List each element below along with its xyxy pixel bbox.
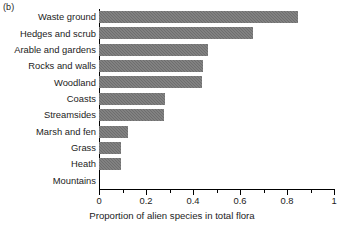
- bar: [99, 109, 164, 121]
- bar-row: [99, 42, 334, 58]
- y-axis-tick-label: Waste ground: [0, 11, 96, 22]
- x-tick-label: 1: [314, 195, 344, 207]
- y-axis-tick-label: Arable and gardens: [0, 44, 96, 55]
- x-tick-label: 0.2: [126, 195, 166, 207]
- bar: [99, 76, 202, 88]
- bar-row: [99, 25, 334, 41]
- bar: [99, 60, 203, 72]
- x-tick-minor: [217, 190, 218, 193]
- bar: [99, 44, 208, 56]
- y-axis-tick-label: Streamsides: [0, 109, 96, 120]
- y-axis-tick-label: Woodland: [0, 77, 96, 88]
- bar: [99, 158, 121, 170]
- x-tick-label: 0.4: [173, 195, 213, 207]
- bar-row: [99, 124, 334, 140]
- x-tick-minor: [123, 190, 124, 193]
- x-tick-label: 0: [79, 195, 119, 207]
- figure-panel-b: (b) Waste groundHedges and scrubArable a…: [0, 0, 344, 226]
- y-axis-tick-label: Mountains: [0, 175, 96, 186]
- y-axis-tick-label: Grass: [0, 142, 96, 153]
- bar: [99, 142, 121, 154]
- bar-row: [99, 58, 334, 74]
- bar: [99, 27, 253, 39]
- y-axis-tick-label: Marsh and fen: [0, 126, 96, 137]
- x-tick-minor: [264, 190, 265, 193]
- bar-row: [99, 173, 334, 189]
- plot-area: [99, 9, 334, 189]
- x-tick-label: 0.8: [267, 195, 307, 207]
- x-tick-minor: [311, 190, 312, 193]
- y-axis-tick-label: Hedges and scrub: [0, 28, 96, 39]
- x-axis-title: Proportion of alien species in total flo…: [0, 210, 344, 222]
- bar: [99, 11, 298, 23]
- bar: [99, 126, 128, 138]
- bar-row: [99, 156, 334, 172]
- x-tick-label: 0.6: [220, 195, 260, 207]
- x-tick-minor: [170, 190, 171, 193]
- y-axis-tick-label: Rocks and walls: [0, 60, 96, 71]
- bar-row: [99, 107, 334, 123]
- y-axis-tick-label: Coasts: [0, 93, 96, 104]
- bar: [99, 93, 165, 105]
- bar-row: [99, 91, 334, 107]
- bar-row: [99, 9, 334, 25]
- y-axis-tick-label: Heath: [0, 158, 96, 169]
- bar-row: [99, 74, 334, 90]
- bar-row: [99, 140, 334, 156]
